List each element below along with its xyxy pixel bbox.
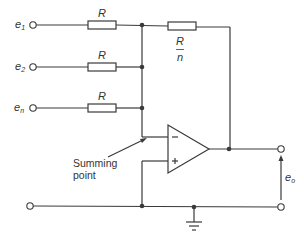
label-eo: eo — [285, 172, 295, 184]
resistor-r1 — [88, 21, 116, 29]
resistor-feedback — [168, 22, 196, 30]
label-en: en — [14, 102, 24, 114]
junction-dot — [227, 147, 232, 152]
junction-dot — [192, 205, 197, 210]
input-terminal-en — [30, 105, 36, 111]
junction-dot — [140, 65, 145, 70]
label-e2: e2 — [15, 61, 25, 73]
junction-dot — [140, 204, 145, 209]
circuit-wiring — [0, 0, 304, 243]
output-ground-terminal — [278, 204, 284, 210]
opamp-triangle — [168, 125, 209, 173]
label-feedback-den: n — [177, 52, 183, 63]
junction-dot — [140, 23, 145, 28]
resistor-r2 — [88, 63, 116, 71]
input-terminal-e1 — [30, 22, 36, 28]
summing-arrowhead — [140, 138, 147, 143]
label-feedback-num: R — [176, 36, 184, 47]
ground-terminal-left — [27, 203, 33, 209]
circuit-diagram: e1 e2 en R R R R n Summing point eo — [0, 0, 304, 243]
label-e1: e1 — [15, 19, 25, 31]
output-terminal — [278, 146, 284, 152]
label-r1: R — [98, 8, 106, 19]
input-terminal-e2 — [30, 64, 36, 70]
resistor-rn — [88, 104, 116, 112]
summing-point-label-line1: Summing — [73, 158, 117, 169]
fraction-bar — [176, 49, 184, 50]
junction-dot — [140, 106, 145, 111]
label-rn: R — [98, 91, 106, 102]
output-arrowhead — [279, 155, 284, 161]
summing-point-label-line2: point — [73, 170, 96, 181]
label-r2: R — [98, 50, 106, 61]
